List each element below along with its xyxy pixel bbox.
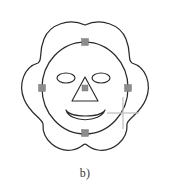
handle-nose-center[interactable] — [82, 85, 88, 91]
right-eye-ellipse[interactable] — [92, 73, 110, 83]
handle-left[interactable] — [39, 85, 46, 92]
handle-bottom[interactable] — [82, 130, 89, 137]
handle-top[interactable] — [82, 39, 89, 46]
vector-drawing[interactable] — [0, 0, 170, 160]
left-eye-ellipse[interactable] — [57, 73, 75, 83]
figure-caption: b) — [0, 160, 170, 189]
figure-container: b) — [0, 0, 170, 189]
drawing-canvas[interactable] — [0, 0, 170, 160]
handle-right[interactable] — [125, 85, 132, 92]
smile-crescent[interactable] — [66, 110, 105, 120]
